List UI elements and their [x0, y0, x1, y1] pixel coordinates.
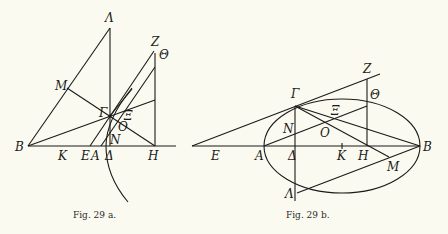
label-Z: Z [362, 62, 372, 76]
label-Theta: Θ [159, 48, 169, 62]
label-Z: Z [150, 35, 160, 49]
point-Gamma [108, 114, 111, 117]
caption-29a: Fig. 29 a. [73, 210, 116, 220]
label-Gamma: Γ [98, 106, 108, 120]
label-Delta: Δ [104, 149, 114, 163]
label-H: H [357, 149, 369, 163]
label-M: M [54, 79, 68, 93]
label-B: B [14, 140, 24, 154]
label-E: E [80, 149, 90, 163]
label-B: B [422, 140, 432, 154]
label-O: O [320, 126, 330, 140]
label-Gamma: Γ [290, 87, 300, 101]
figure-29a: Λ Z Θ M Γ Ξ O N B K E A Δ H Fig. 29 a. [14, 11, 176, 220]
label-K: K [57, 149, 68, 163]
line-B-ZH [28, 100, 155, 146]
label-N: N [282, 122, 294, 136]
label-A: A [90, 149, 100, 163]
label-H: H [147, 149, 159, 163]
diagram-canvas: Λ Z Θ M Γ Ξ O N B K E A Δ H Fig. 29 a. Z… [0, 0, 448, 234]
caption-29b: Fig. 29 b. [286, 210, 330, 220]
label-Delta: Δ [287, 149, 297, 163]
label-M: M [386, 160, 400, 174]
label-A: A [254, 149, 264, 163]
label-Xi: Ξ [330, 104, 340, 118]
label-E: E [210, 149, 220, 163]
figure-29b: Z Γ Θ Ξ N O E A Δ K H B M Λ Fig. 29 b. [192, 62, 432, 220]
label-Lambda: Λ [284, 187, 294, 201]
label-K: K [336, 149, 347, 163]
label-O: O [118, 120, 128, 134]
label-Lambda: Λ [104, 11, 114, 25]
line-B-Lambda [28, 28, 110, 146]
label-Theta: Θ [370, 88, 380, 102]
label-N: N [109, 133, 121, 147]
